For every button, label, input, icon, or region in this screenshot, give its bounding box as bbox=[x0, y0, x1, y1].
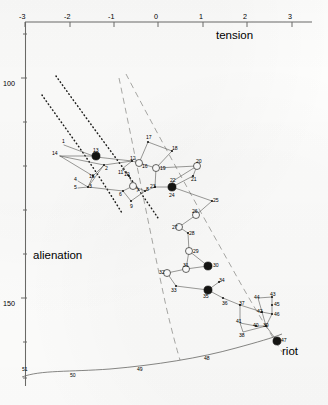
data-point-13[interactable] bbox=[92, 152, 100, 160]
chart-svg bbox=[0, 0, 328, 405]
point-label-4: 4 bbox=[74, 176, 77, 182]
fold-curve-dashed-left bbox=[119, 78, 180, 360]
point-label-45: 45 bbox=[274, 301, 280, 307]
point-label-29: 29 bbox=[193, 248, 199, 254]
x-tick-label-2: 2 bbox=[243, 5, 247, 23]
data-point-47[interactable] bbox=[273, 337, 281, 345]
x-tick-label-m3: -3 bbox=[19, 5, 25, 23]
point-label-34: 34 bbox=[219, 277, 225, 283]
data-point-30[interactable] bbox=[204, 262, 212, 270]
point-label-50: 50 bbox=[70, 372, 76, 378]
riot-annotation: riot bbox=[282, 345, 298, 357]
fold-curve-dotted-lower bbox=[56, 76, 158, 218]
y-tick-label-150: 150 bbox=[3, 292, 15, 310]
point-label-19: 19 bbox=[160, 165, 166, 171]
trajectory-lines bbox=[60, 142, 277, 341]
point-label-39: 39 bbox=[263, 322, 269, 328]
point-label-49: 49 bbox=[137, 366, 143, 372]
point-label-12: 12 bbox=[130, 155, 136, 161]
fold-curve-dotted-group bbox=[42, 76, 158, 218]
fold-curve-dashed-group bbox=[119, 74, 282, 360]
point-label-43: 43 bbox=[270, 291, 276, 297]
data-point-29[interactable] bbox=[186, 248, 193, 255]
point-label-9: 9 bbox=[130, 203, 133, 209]
point-label-16: 16 bbox=[142, 163, 148, 169]
chart-canvas: -3 -2 -1 0 1 2 3 100 150 tension alienat… bbox=[0, 0, 328, 405]
point-label-48: 48 bbox=[204, 355, 210, 361]
data-point-9[interactable] bbox=[130, 200, 132, 202]
point-label-15: 15 bbox=[89, 173, 95, 179]
point-label-27: 27 bbox=[172, 224, 178, 230]
point-label-41: 41 bbox=[236, 318, 242, 324]
point-label-14: 14 bbox=[52, 150, 58, 156]
y-axis-title: alienation bbox=[33, 249, 82, 261]
point-label-33: 33 bbox=[171, 287, 177, 293]
point-label-23: 23 bbox=[150, 183, 156, 189]
x-tick-label-1: 1 bbox=[199, 5, 203, 23]
point-label-5: 5 bbox=[74, 184, 77, 190]
point-label-36: 36 bbox=[222, 300, 228, 306]
point-label-28: 28 bbox=[189, 230, 195, 236]
point-label-18: 18 bbox=[172, 145, 178, 151]
point-label-40: 40 bbox=[253, 322, 259, 328]
data-point-36[interactable] bbox=[222, 297, 224, 299]
point-label-8: 8 bbox=[146, 186, 149, 192]
base-curve bbox=[22, 334, 282, 377]
point-label-22: 22 bbox=[170, 177, 176, 183]
x-axis-title: tension bbox=[216, 29, 253, 41]
point-label-30: 30 bbox=[213, 262, 219, 268]
x-tick-label-m1: -1 bbox=[108, 5, 114, 23]
point-label-7: 7 bbox=[136, 187, 139, 193]
point-label-35: 35 bbox=[203, 293, 209, 299]
point-label-20: 20 bbox=[196, 158, 202, 164]
point-label-51: 51 bbox=[22, 366, 28, 372]
y-axis-ticks bbox=[21, 34, 27, 378]
data-point-6[interactable] bbox=[122, 190, 124, 192]
point-label-24: 24 bbox=[169, 192, 175, 198]
x-tick-label-3: 3 bbox=[288, 5, 292, 23]
data-point-19[interactable] bbox=[153, 165, 160, 172]
data-points-group bbox=[87, 141, 281, 345]
point-label-10: 10 bbox=[124, 171, 130, 177]
point-label-21: 21 bbox=[191, 176, 197, 182]
data-point-17[interactable] bbox=[147, 141, 149, 143]
x-tick-label-0: 0 bbox=[154, 5, 158, 23]
axes-group bbox=[21, 22, 312, 386]
point-label-2: 2 bbox=[105, 165, 108, 171]
point-label-11: 11 bbox=[118, 169, 123, 175]
point-label-37: 37 bbox=[239, 300, 245, 306]
point-label-32: 32 bbox=[159, 269, 165, 275]
point-label-46: 46 bbox=[274, 311, 280, 317]
data-point-24[interactable] bbox=[168, 183, 176, 191]
data-point-46[interactable] bbox=[271, 313, 273, 315]
y-tick-label-100: 100 bbox=[3, 72, 15, 90]
point-label-13: 13 bbox=[93, 147, 99, 153]
point-label-6: 6 bbox=[119, 191, 122, 197]
data-point-45[interactable] bbox=[271, 304, 273, 306]
point-label-42: 42 bbox=[257, 308, 263, 314]
point-label-1: 1 bbox=[62, 138, 65, 144]
point-label-38: 38 bbox=[239, 332, 245, 338]
x-tick-label-m2: -2 bbox=[64, 5, 70, 23]
point-label-26: 26 bbox=[192, 208, 198, 214]
point-label-3: 3 bbox=[89, 183, 92, 189]
point-label-25: 25 bbox=[213, 197, 219, 203]
point-label-17: 17 bbox=[146, 134, 152, 140]
point-label-47: 47 bbox=[281, 337, 287, 343]
point-label-44: 44 bbox=[254, 294, 260, 300]
point-label-31: 31 bbox=[183, 262, 189, 268]
